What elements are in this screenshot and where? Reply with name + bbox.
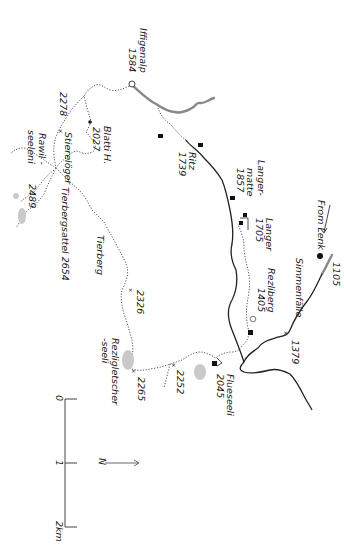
rawil-seeleni-lake [18, 208, 26, 224]
label-1105: 1105 [331, 262, 342, 286]
label-from-lenk: From Lenk [316, 200, 327, 251]
label-blatti-elev: 2027 [91, 127, 102, 151]
blatti-marker [88, 120, 92, 124]
road-from-lenk [322, 255, 332, 274]
p2326-marker: × [128, 286, 133, 293]
hiking-map: × × × × × Iffigenalp 1584 Blatti H. 2027… [0, 0, 344, 555]
rawil-seeleni-lake-2 [13, 193, 19, 199]
label-2252: 2252 [175, 370, 186, 394]
road-iffigenalp [132, 85, 214, 113]
label-flueseeli-elev: 2045 [215, 374, 226, 398]
valley-road [240, 274, 322, 374]
river-path [290, 374, 312, 410]
label-iffigenalp-elev: 1584 [127, 48, 138, 72]
p1105-marker [317, 253, 323, 259]
label-stierelager: Stierelöger [63, 132, 74, 185]
hut-icon [243, 213, 247, 217]
label-tierberg: Tierberg [95, 235, 106, 275]
fluesseeli-hut-roof-icon [217, 358, 222, 366]
scale-tick-2km: 2km [54, 521, 65, 542]
p2265-marker: × [131, 367, 136, 374]
hut-icon [198, 143, 203, 147]
label-1379: 1379 [290, 340, 301, 364]
fluesseeli-lake [194, 364, 206, 380]
label-iffigenalp: Iffigenalp [138, 28, 149, 73]
p1379-marker: × [283, 329, 288, 336]
hut-icon [248, 330, 253, 335]
label-2326: 2326 [135, 290, 146, 314]
label-rezliberg-elev: 1405 [256, 288, 267, 312]
p2278-marker: × [58, 127, 63, 134]
scale-bar: 0 1 2km [54, 395, 77, 542]
label-rezligletscher-2: -seeli [100, 338, 111, 364]
label-2489: 2489 [27, 184, 38, 208]
hut-icon [239, 221, 243, 225]
hiking-trail [56, 85, 250, 371]
trail-2252-spur [164, 364, 170, 388]
p2252-marker: × [171, 361, 176, 368]
hut-icon [158, 134, 163, 138]
label-langermatte-1: Langer- [256, 160, 267, 196]
label-2278: 2278 [58, 92, 69, 116]
scale-tick-0: 0 [54, 395, 65, 401]
north-arrow: N [97, 458, 139, 466]
label-2265: 2265 [136, 377, 147, 401]
label-langermatte-elev: 1857 [235, 168, 246, 192]
scale-tick-1: 1 [54, 460, 65, 466]
label-blatti: Blatti H. [102, 126, 113, 164]
label-rawil-2: seeleni [26, 130, 37, 164]
hut-icon [212, 361, 217, 366]
label-simmenfalle: Simmenfälle [294, 258, 305, 317]
north-label: N [97, 458, 108, 465]
label-rawil-1: Rawil - [37, 133, 48, 165]
label-tierbergsattel: Tierbergsattel 2654 [60, 187, 71, 281]
hut-icon [230, 196, 235, 200]
rezliberg-marker [250, 316, 256, 322]
label-ritz-elev: 1739 [177, 152, 188, 176]
label-langer-1705-elev: 1705 [254, 218, 265, 242]
iffigenalp-marker [129, 81, 135, 87]
